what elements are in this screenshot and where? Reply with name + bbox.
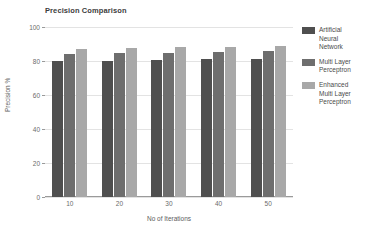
bar-series-3: [225, 47, 236, 197]
legend-swatch-icon: [302, 59, 315, 66]
y-axis-tick-label: 40: [33, 126, 40, 133]
legend-swatch-icon: [302, 82, 315, 89]
bar-series-2: [213, 52, 224, 197]
chart-title: Precision Comparison: [45, 6, 127, 15]
y-axis-tick-label: 20: [33, 160, 40, 167]
bar-series-3: [76, 49, 87, 197]
bar-group: [45, 27, 95, 197]
bar-series-2: [163, 53, 174, 198]
y-axis-title: Precision %: [4, 78, 11, 112]
plot-area: 020406080100: [45, 27, 293, 197]
bar-group: [194, 27, 244, 197]
y-axis-tick-label: 60: [33, 92, 40, 99]
bar-series-3: [175, 47, 186, 197]
legend-item-label: ArtificialNeuralNetwork: [319, 26, 343, 52]
bar-series-2: [263, 51, 274, 197]
bar-series-1: [151, 60, 162, 197]
legend-swatch-icon: [302, 27, 315, 34]
y-axis-tick-mark: [42, 197, 45, 198]
bar-series-1: [102, 61, 113, 198]
bar-series-3: [275, 46, 286, 197]
x-axis-tick-labels: 1020304050: [45, 200, 293, 207]
legend-item[interactable]: ArtificialNeuralNetwork: [302, 26, 380, 52]
bar-groups: [45, 27, 293, 197]
x-axis-tick-label: 50: [243, 200, 293, 207]
bar-group: [243, 27, 293, 197]
bar-series-1: [251, 59, 262, 197]
y-axis-tick-label: 0: [36, 194, 40, 201]
chart-legend: ArtificialNeuralNetworkMulti LayerPercep…: [302, 26, 380, 113]
y-axis-tick-label: 100: [29, 24, 40, 31]
legend-item[interactable]: Multi LayerPerceptron: [302, 58, 380, 75]
bar-series-2: [114, 53, 125, 198]
bar-series-1: [201, 59, 212, 197]
bar-group: [144, 27, 194, 197]
gridline: [45, 197, 293, 198]
bar-series-1: [52, 61, 63, 197]
legend-item-label: EnhancedMulti LayerPerceptron: [319, 81, 351, 107]
x-axis-tick-label: 30: [144, 200, 194, 207]
y-axis-tick-label: 80: [33, 58, 40, 65]
chart-container: Precision Comparison Precision % 0204060…: [0, 0, 382, 240]
x-axis-tick-label: 10: [45, 200, 95, 207]
bar-group: [95, 27, 145, 197]
bar-series-3: [126, 48, 137, 197]
x-axis-title: No of Iterations: [45, 215, 293, 222]
bar-series-2: [64, 54, 75, 197]
x-axis-tick-label: 40: [194, 200, 244, 207]
legend-item[interactable]: EnhancedMulti LayerPerceptron: [302, 81, 380, 107]
legend-item-label: Multi LayerPerceptron: [319, 58, 351, 75]
x-axis-tick-label: 20: [95, 200, 145, 207]
